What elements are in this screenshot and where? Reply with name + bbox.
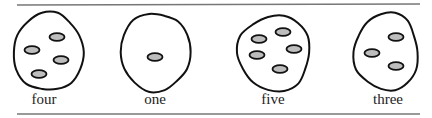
dot	[54, 56, 69, 64]
blob-outline	[353, 12, 417, 90]
dot	[273, 65, 288, 73]
group-label-four: four	[32, 91, 57, 107]
dot	[365, 49, 380, 57]
group-label-three: three	[373, 91, 403, 107]
group-one	[121, 14, 191, 93]
top-rule	[17, 4, 420, 5]
dot	[25, 46, 40, 54]
dot	[32, 70, 47, 78]
dot	[50, 33, 65, 41]
dot	[250, 51, 265, 59]
group-three	[353, 12, 417, 90]
dot	[276, 28, 291, 36]
dot	[389, 62, 404, 70]
dot	[148, 53, 163, 61]
group-five	[237, 15, 309, 91]
dot	[389, 33, 404, 41]
dot	[252, 35, 267, 43]
diagram-canvas	[0, 0, 432, 118]
group-four	[14, 12, 84, 90]
dot	[287, 45, 302, 53]
group-label-five: five	[261, 91, 284, 107]
group-label-one: one	[144, 91, 166, 107]
blob-outline	[237, 15, 309, 91]
